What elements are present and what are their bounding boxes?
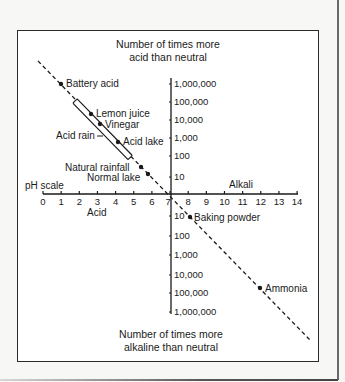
acid-scale-tick-label: 10,000 bbox=[174, 114, 203, 125]
ammonia-dot bbox=[258, 286, 262, 290]
top-title-line-1: Number of times more bbox=[116, 38, 220, 50]
acid-scale-tick-label: 100 bbox=[174, 150, 190, 161]
acid-rain-label: Acid rain bbox=[56, 130, 95, 141]
ph-tick-label: 1 bbox=[59, 196, 64, 207]
ph-scale-diagram: Number of times more acid than neutral N… bbox=[0, 0, 345, 382]
baking-powder-dot bbox=[188, 215, 192, 219]
bottom-title-line-1: Number of times more bbox=[119, 328, 223, 340]
ph-tick-label: 12 bbox=[256, 196, 267, 207]
acid-scale-tick-label: 10 bbox=[174, 171, 185, 182]
acid-label: Acid bbox=[87, 207, 106, 218]
acid-scale-tick-label: 100,000 bbox=[174, 96, 208, 107]
ammonia-label: Ammonia bbox=[265, 283, 308, 294]
top-title-line-2: acid than neutral bbox=[129, 51, 207, 63]
battery-acid-label: Battery acid bbox=[66, 78, 119, 89]
alkaline-scale-tick-label: 1,000,000 bbox=[174, 306, 216, 317]
baking-powder-label: Baking powder bbox=[194, 212, 261, 223]
ph-tick-label: 10 bbox=[219, 196, 230, 207]
ph-tick-label: 13 bbox=[274, 196, 285, 207]
natural-rainfall-dot bbox=[139, 165, 143, 169]
alkaline-scale-tick-label: 100,000 bbox=[174, 287, 208, 298]
acid-scale-tick-label: 1,000 bbox=[174, 132, 198, 143]
ph-tick-label: 14 bbox=[292, 196, 303, 207]
acid-lake-label: Acid lake bbox=[123, 136, 164, 147]
ph-tick-label: 2 bbox=[77, 196, 82, 207]
ph-scale-label: pH scale bbox=[25, 180, 64, 191]
battery-acid-dot bbox=[59, 82, 63, 86]
substance-markers: Battery acid Lemon juice Vinegar Acid ra… bbox=[56, 78, 308, 294]
vinegar-dot bbox=[98, 122, 102, 126]
ph-tick-label: 8 bbox=[186, 196, 191, 207]
ph-tick-label: 0 bbox=[40, 196, 45, 207]
ph-tick-label: 3 bbox=[95, 196, 100, 207]
alkali-label: Alkali bbox=[229, 179, 253, 190]
bottom-title-line-2: alkaline than neutral bbox=[124, 341, 218, 353]
vertical-axis: 1,000,000100,00010,0001,00010010 101001,… bbox=[169, 78, 216, 317]
ph-tick-label: 9 bbox=[204, 196, 209, 207]
acid-scale-tick-label: 1,000,000 bbox=[174, 78, 216, 89]
vinegar-label: Vinegar bbox=[105, 119, 140, 130]
lemon-juice-dot bbox=[89, 112, 93, 116]
ph-tick-label: 6 bbox=[149, 196, 154, 207]
ph-tick-label: 4 bbox=[113, 196, 118, 207]
ph-tick-label: 5 bbox=[131, 196, 136, 207]
alkaline-scale-tick-label: 10 bbox=[174, 210, 185, 221]
alkaline-scale-tick-label: 10,000 bbox=[174, 269, 203, 280]
alkaline-scale-tick-label: 1,000 bbox=[174, 249, 198, 260]
normal-lake-dot bbox=[146, 172, 150, 176]
ph-tick-label: 11 bbox=[238, 196, 248, 207]
ph-tick-label: 7 bbox=[165, 196, 170, 207]
acid-lake-dot bbox=[116, 140, 120, 144]
lemon-juice-label: Lemon juice bbox=[96, 108, 150, 119]
normal-lake-label: Normal lake bbox=[87, 172, 141, 183]
alkaline-scale-tick-label: 100 bbox=[174, 230, 190, 241]
